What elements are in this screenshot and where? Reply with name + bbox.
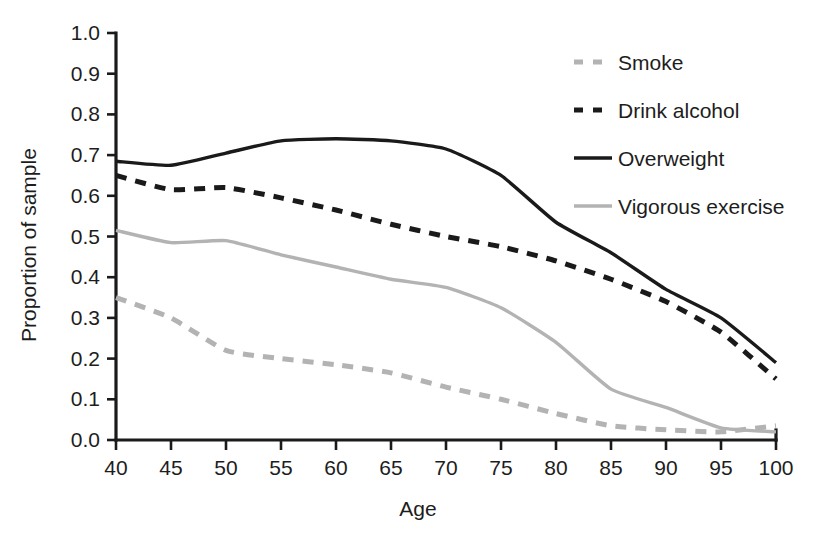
y-tick-label: 0.3 (71, 306, 100, 329)
legend-label: Smoke (618, 51, 683, 74)
x-tick-label: 55 (269, 456, 292, 479)
legend-item-drink-alcohol[interactable]: Drink alcohol (574, 99, 739, 122)
y-axis-title: Proportion of sample (17, 148, 40, 342)
x-tick-label: 50 (214, 456, 237, 479)
series-lines (116, 139, 776, 432)
x-tick-label: 45 (159, 456, 182, 479)
legend-item-smoke[interactable]: Smoke (574, 51, 683, 74)
line-chart: 0.00.10.20.30.40.50.60.70.80.91.0 404550… (0, 0, 814, 533)
x-tick-label: 90 (654, 456, 677, 479)
y-tick-label: 0.4 (71, 265, 101, 288)
x-axis-tick-labels: 404550556065707580859095100 (104, 456, 793, 479)
y-tick-label: 0.2 (71, 347, 100, 370)
legend-label: Drink alcohol (618, 99, 739, 122)
x-tick-label: 85 (599, 456, 622, 479)
y-tick-label: 1.0 (71, 21, 100, 44)
x-tick-label: 40 (104, 456, 127, 479)
x-tick-label: 75 (489, 456, 512, 479)
y-axis-tick-labels: 0.00.10.20.30.40.50.60.70.80.91.0 (71, 21, 101, 451)
y-tick-label: 0.8 (71, 102, 100, 125)
x-tick-label: 60 (324, 456, 347, 479)
series-line-overweight (116, 139, 776, 363)
legend-item-vigorous-exercise[interactable]: Vigorous exercise (574, 195, 785, 218)
y-tick-label: 0.9 (71, 62, 100, 85)
chart-legend: SmokeDrink alcoholOverweightVigorous exe… (574, 51, 785, 218)
x-axis-title: Age (399, 497, 436, 520)
x-tick-label: 70 (434, 456, 457, 479)
legend-label: Vigorous exercise (618, 195, 785, 218)
y-tick-label: 0.7 (71, 143, 100, 166)
y-tick-label: 0.0 (71, 428, 100, 451)
x-tick-label: 100 (758, 456, 793, 479)
x-tick-label: 80 (544, 456, 567, 479)
chart-figure: 0.00.10.20.30.40.50.60.70.80.91.0 404550… (0, 0, 814, 533)
series-line-vigorous-exercise (116, 230, 776, 431)
x-tick-label: 65 (379, 456, 402, 479)
y-tick-label: 0.1 (71, 387, 100, 410)
x-tick-label: 95 (709, 456, 732, 479)
y-tick-label: 0.6 (71, 184, 100, 207)
legend-label: Overweight (618, 147, 724, 170)
y-tick-label: 0.5 (71, 225, 100, 248)
legend-item-overweight[interactable]: Overweight (574, 147, 724, 170)
